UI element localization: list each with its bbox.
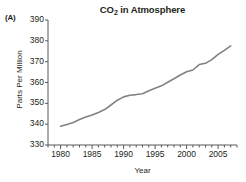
axis-lines [48, 20, 237, 145]
axis-ticks [45, 20, 237, 149]
data-series-group [61, 46, 231, 126]
plot-area [0, 0, 246, 182]
data-line [61, 46, 231, 126]
chart-figure: (A) CO2 in Atmosphere Parts Per Million … [0, 0, 246, 182]
